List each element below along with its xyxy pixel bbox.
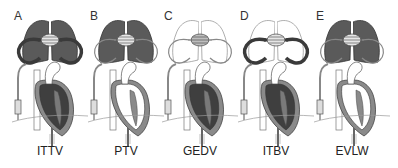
diagram-panel-e: E [312, 0, 392, 168]
panel-caption: ITBV [236, 144, 316, 158]
heart-lung-schematic-icon [312, 18, 392, 146]
diagram-panel-d: D [236, 0, 316, 168]
heart-lung-schematic-icon [236, 18, 316, 146]
diagram-panel-a: A [10, 0, 90, 168]
diagram-panel-c: C [160, 0, 240, 168]
panel-caption: GEDV [160, 144, 240, 158]
volume-diagram-figure: A [0, 0, 398, 168]
panel-caption: ITTV [10, 144, 90, 158]
heart-lung-schematic-icon [86, 18, 166, 146]
panel-caption: PTV [86, 144, 166, 158]
heart-lung-schematic-icon [160, 18, 240, 146]
diagram-panel-b: B [86, 0, 166, 168]
heart-lung-schematic-icon [10, 18, 90, 146]
panel-caption: EVLW [312, 144, 392, 158]
